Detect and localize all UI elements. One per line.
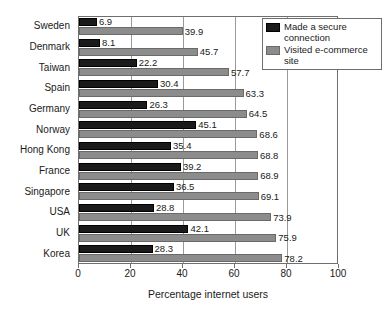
bar-row: 45.168.6 xyxy=(79,120,337,141)
y-axis-label-usa: USA xyxy=(49,207,70,217)
y-axis-labels: SwedenDenmarkTaiwanSpainGermanyNorwayHon… xyxy=(0,16,74,264)
bar-value-secure: 35.4 xyxy=(173,141,192,150)
bar-visited-ecommerce xyxy=(79,213,271,221)
x-tick-label-40: 40 xyxy=(176,269,187,279)
bar-value-visited: 39.9 xyxy=(185,27,204,36)
bar-secure-connection xyxy=(79,59,137,67)
bar-visited-ecommerce xyxy=(79,172,258,180)
bar-visited-ecommerce xyxy=(79,68,229,76)
x-tick-label-100: 100 xyxy=(330,269,347,279)
bar-visited-ecommerce xyxy=(79,151,258,159)
bar-visited-ecommerce xyxy=(79,89,244,97)
y-axis-label-spain: Spain xyxy=(44,83,70,93)
bar-secure-connection xyxy=(79,225,188,233)
bar-value-secure: 45.1 xyxy=(198,120,217,129)
bar-value-visited: 78.2 xyxy=(284,254,303,263)
bar-secure-connection xyxy=(79,18,97,26)
bar-chart: SwedenDenmarkTaiwanSpainGermanyNorwayHon… xyxy=(0,0,384,318)
bar-row: 30.463.3 xyxy=(79,79,337,100)
legend-swatch-secure xyxy=(266,23,280,32)
bar-row: 36.569.1 xyxy=(79,182,337,203)
bar-value-visited: 45.7 xyxy=(200,47,219,56)
bar-value-secure: 8.1 xyxy=(102,38,115,47)
legend-label: Made a secure connection xyxy=(284,22,378,43)
y-axis-label-hong-kong: Hong Kong xyxy=(20,145,70,155)
bar-value-visited: 69.1 xyxy=(261,192,280,201)
bar-value-secure: 6.9 xyxy=(99,17,112,26)
bar-secure-connection xyxy=(79,163,181,171)
bar-secure-connection xyxy=(79,245,153,253)
bar-row: 42.175.9 xyxy=(79,224,337,245)
bar-value-visited: 64.5 xyxy=(249,109,268,118)
legend-label: Visited e-commerce site xyxy=(284,45,378,66)
bar-visited-ecommerce xyxy=(79,254,282,262)
bar-value-visited: 68.6 xyxy=(259,130,278,139)
bar-visited-ecommerce xyxy=(79,110,247,118)
bar-value-visited: 68.9 xyxy=(260,171,279,180)
legend-swatch-visited xyxy=(266,46,280,55)
bar-value-secure: 28.3 xyxy=(155,244,174,253)
y-axis-label-denmark: Denmark xyxy=(29,42,70,52)
bar-secure-connection xyxy=(79,39,100,47)
y-axis-label-korea: Korea xyxy=(43,249,70,259)
y-axis-label-norway: Norway xyxy=(36,125,70,135)
y-axis-label-singapore: Singapore xyxy=(24,187,70,197)
bar-row: 28.378.2 xyxy=(79,244,337,265)
bar-secure-connection xyxy=(79,142,171,150)
bar-value-secure: 28.8 xyxy=(156,203,175,212)
bar-row: 28.873.9 xyxy=(79,203,337,224)
x-tick-label-0: 0 xyxy=(75,269,81,279)
x-tick-label-20: 20 xyxy=(124,269,135,279)
x-axis-title: Percentage internet users xyxy=(78,289,338,300)
legend-item: Made a secure connection xyxy=(266,22,378,43)
bar-value-secure: 30.4 xyxy=(160,79,179,88)
y-axis-label-germany: Germany xyxy=(29,104,70,114)
bar-value-visited: 75.9 xyxy=(278,233,297,242)
bar-value-visited: 68.8 xyxy=(260,151,279,160)
bar-value-visited: 57.7 xyxy=(231,68,250,77)
bar-value-secure: 39.2 xyxy=(183,162,202,171)
bar-value-secure: 22.2 xyxy=(139,58,158,67)
bar-secure-connection xyxy=(79,204,154,212)
y-axis-label-uk: UK xyxy=(56,228,70,238)
bar-row: 39.268.9 xyxy=(79,162,337,183)
bar-visited-ecommerce xyxy=(79,48,198,56)
y-axis-label-taiwan: Taiwan xyxy=(39,63,70,73)
x-tick-label-60: 60 xyxy=(228,269,239,279)
bar-visited-ecommerce xyxy=(79,192,259,200)
bar-row: 26.364.5 xyxy=(79,100,337,121)
bar-secure-connection xyxy=(79,101,147,109)
x-tick-label-80: 80 xyxy=(280,269,291,279)
bar-value-secure: 26.3 xyxy=(149,100,168,109)
bar-value-visited: 73.9 xyxy=(273,213,292,222)
x-axis-ticks: 020406080100 xyxy=(78,264,338,280)
bar-row: 35.468.8 xyxy=(79,141,337,162)
bar-visited-ecommerce xyxy=(79,27,183,35)
bar-visited-ecommerce xyxy=(79,130,257,138)
bar-value-secure: 36.5 xyxy=(176,182,195,191)
bar-value-secure: 42.1 xyxy=(190,224,209,233)
y-axis-label-france: France xyxy=(39,166,70,176)
legend: Made a secure connectionVisited e-commer… xyxy=(262,18,382,70)
bar-secure-connection xyxy=(79,80,158,88)
y-axis-label-sweden: Sweden xyxy=(34,21,70,31)
bar-visited-ecommerce xyxy=(79,234,276,242)
bar-secure-connection xyxy=(79,121,196,129)
legend-item: Visited e-commerce site xyxy=(266,45,378,66)
bar-secure-connection xyxy=(79,183,174,191)
bar-value-visited: 63.3 xyxy=(246,89,265,98)
